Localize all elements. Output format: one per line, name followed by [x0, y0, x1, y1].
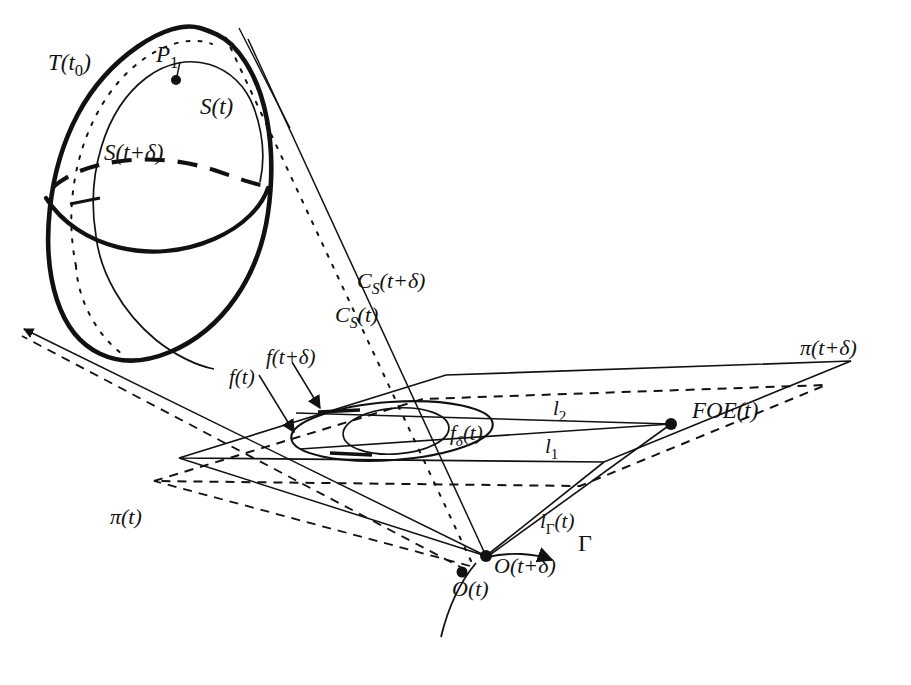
- label-cone-cs-t-delta: CS(t+δ): [357, 268, 425, 297]
- origin-t-delta-marker: [480, 550, 492, 562]
- figure-canvas: T(t0) P1 S(t) S(t+δ) CS(t+δ) CS(t) f(t) …: [0, 0, 911, 685]
- label-plane-pi-t: π(t): [110, 504, 142, 529]
- point-p1-marker: [171, 75, 181, 85]
- flow-ellipse-tick-bottom: [330, 453, 372, 455]
- surface-inner-meridian-lower: [96, 236, 214, 369]
- surface-equator-front: [46, 188, 268, 252]
- cone-edge-to-plane-left: [179, 458, 486, 556]
- label-tangent-plane: T(t0): [48, 50, 91, 80]
- surface-interior-tick: [70, 198, 100, 204]
- label-line-l1: l1: [545, 434, 558, 462]
- foe-point-marker: [665, 418, 677, 430]
- label-foe: FOE(t): [691, 398, 758, 423]
- optical-flow-arrow-group: [259, 362, 320, 432]
- label-plane-pi-t-delta: π(t+δ): [800, 335, 857, 360]
- label-cone-cs-t: CS(t): [335, 302, 378, 331]
- flow-arrow-f-t: [259, 375, 294, 432]
- label-origin-t: O(t): [452, 576, 489, 601]
- cone-cs-t-delta-right-generator: [248, 39, 486, 556]
- image-plane-group: [154, 361, 851, 486]
- flow-ellipse-tick-top: [318, 410, 360, 412]
- cone-edge-to-plane-left-dashed: [154, 481, 470, 566]
- diagram-labels: T(t0) P1 S(t) S(t+δ) CS(t+δ) CS(t) f(t) …: [48, 42, 857, 601]
- technical-diagram: T(t0) P1 S(t) S(t+δ) CS(t+δ) CS(t) f(t) …: [0, 0, 911, 685]
- label-point-p1: P1: [155, 42, 178, 72]
- cone-cs-t-delta-left-generator: [24, 329, 486, 556]
- label-line-l-gamma: lΓ(t): [540, 509, 574, 537]
- viewing-cone-group: [22, 38, 486, 570]
- line-l2: [296, 413, 671, 424]
- label-surface-s-t: S(t): [200, 94, 233, 119]
- label-gamma: Γ: [578, 530, 592, 556]
- inner-flow-ellipse: [342, 404, 451, 457]
- label-origin-t-delta: O(t+δ): [494, 553, 556, 578]
- label-surface-s-t-delta: S(t+δ): [104, 140, 163, 165]
- label-line-l2: l2: [553, 396, 566, 424]
- label-flow-f-delta-t: fδ(t): [450, 421, 483, 449]
- label-flow-f-t: f(t): [229, 365, 255, 389]
- label-flow-f-t-delta: f(t+δ): [266, 345, 316, 369]
- line-l1: [300, 424, 671, 449]
